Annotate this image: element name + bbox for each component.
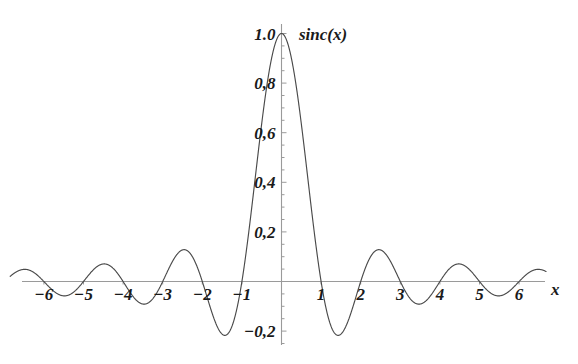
y-tick-label: 0,6 [254,124,276,143]
y-tick-label: 0,8 [254,74,276,93]
x-tick-label: −6 [34,285,53,304]
x-tick-label: −2 [193,285,212,304]
y-tick-label: 1.0 [254,25,276,44]
sinc-plot: −6−5−4−3−2−1123456 1.00,80,60,40,2−0,2 s… [0,0,578,364]
x-tick-label: 2 [355,285,365,304]
chart-page: −6−5−4−3−2−1123456 1.00,80,60,40,2−0,2 s… [0,0,578,364]
x-tick-label: 4 [435,285,445,304]
plot-background [0,0,578,364]
curve-label: sinc(x) [298,25,347,44]
x-tick-label: 1 [317,285,326,304]
y-tick-label: −0,2 [244,322,276,341]
x-tick-label: −3 [153,285,172,304]
y-tick-label: 0,2 [254,223,276,242]
y-tick-label: 0,4 [254,173,275,192]
x-tick-label: 6 [515,285,524,304]
x-axis-label: x [550,280,560,299]
x-tick-label: −1 [232,285,251,304]
x-tick-label: 5 [475,285,484,304]
x-tick-label: −5 [74,285,93,304]
x-tick-label: −4 [114,285,133,304]
x-tick-label: 3 [395,285,405,304]
